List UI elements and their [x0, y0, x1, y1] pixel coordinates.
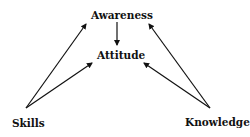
edge-skills-awareness — [26, 24, 86, 108]
node-skills: Skills — [12, 117, 45, 129]
node-awareness: Awareness — [91, 9, 153, 21]
diagram-canvas: Awareness Attitude Skills Knowledge — [0, 0, 250, 137]
edge-knowledge-attitude — [144, 63, 210, 108]
edge-skills-attitude — [26, 63, 92, 108]
node-knowledge: Knowledge — [185, 116, 250, 128]
node-attitude: Attitude — [97, 49, 145, 61]
edge-knowledge-awareness — [149, 24, 210, 108]
